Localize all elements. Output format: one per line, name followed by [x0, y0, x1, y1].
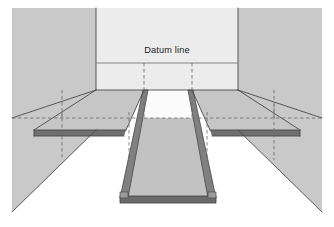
figure-canvas: Datum line — [0, 0, 334, 227]
ramp-surface-upper — [141, 90, 195, 118]
ramp-bottom-right-cap — [208, 192, 216, 198]
perspective-diagram: Datum line — [0, 0, 334, 227]
ramp-bottom-edge — [120, 196, 216, 203]
platform-face-left — [34, 130, 126, 136]
datum-line-label: Datum line — [144, 45, 189, 55]
platform-face-right — [210, 130, 300, 136]
ramp-bottom-left-cap — [120, 192, 128, 198]
